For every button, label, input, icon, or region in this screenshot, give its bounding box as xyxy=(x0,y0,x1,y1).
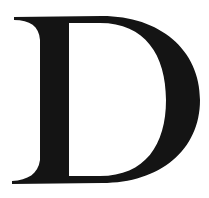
letter-d-glyph: D xyxy=(0,0,209,198)
letter-d-icon xyxy=(0,0,209,198)
